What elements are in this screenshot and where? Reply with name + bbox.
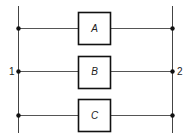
component-label-b: B — [91, 66, 98, 77]
terminal-node-1 — [16, 69, 20, 73]
terminal-node-2 — [170, 69, 174, 73]
parallel-circuit-diagram: A B C 1 2 — [0, 0, 195, 137]
junction-node — [16, 26, 20, 30]
terminal-label-2: 2 — [177, 66, 183, 77]
branch-a: A — [16, 13, 174, 45]
branch-c: C — [16, 100, 174, 132]
component-label-a: A — [90, 23, 98, 34]
terminal-label-1: 1 — [9, 66, 15, 77]
component-label-c: C — [91, 110, 99, 121]
junction-node — [170, 113, 174, 117]
junction-node — [170, 26, 174, 30]
junction-node — [16, 113, 20, 117]
branch-b: B — [16, 57, 174, 89]
